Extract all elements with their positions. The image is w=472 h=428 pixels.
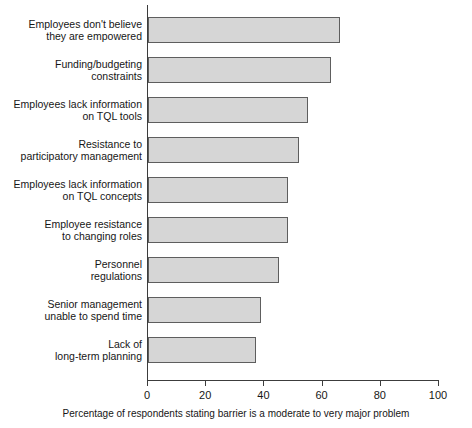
x-axis-tick	[380, 380, 381, 386]
bar-row	[148, 137, 447, 163]
bar	[148, 257, 279, 283]
bar	[148, 217, 288, 243]
category-label-line: unable to spend time	[45, 310, 142, 323]
category-label-line: Employees lack information	[14, 178, 142, 191]
bar	[148, 57, 331, 83]
category-label: Funding/budgetingconstraints	[0, 57, 142, 83]
category-label-line: Funding/budgeting	[55, 58, 142, 71]
category-label-line: Resistance to	[78, 138, 142, 151]
bar	[148, 137, 299, 163]
bars-container	[148, 17, 447, 377]
category-label-line: on TQL concepts	[63, 190, 142, 203]
category-label-line: they are empowered	[46, 30, 142, 43]
category-label-line: to changing roles	[62, 230, 142, 243]
category-label-line: participatory management	[21, 150, 142, 163]
category-label-line: Senior management	[47, 298, 142, 311]
category-label-line: Employee resistance	[45, 218, 142, 231]
category-axis-labels: Employees don't believethey are empowere…	[0, 17, 142, 377]
bar-row	[148, 257, 447, 283]
category-label: Employees lack informationon TQL tools	[0, 97, 142, 123]
x-axis-tick	[263, 380, 264, 386]
plot-area: 020406080100	[147, 5, 447, 380]
category-label-line: Personnel	[95, 258, 142, 271]
x-axis-tick-label: 60	[315, 389, 327, 401]
category-label: Senior managementunable to spend time	[0, 297, 142, 323]
x-axis-tick-label: 0	[144, 389, 150, 401]
bar-row	[148, 57, 447, 83]
category-label: Employee resistanceto changing roles	[0, 217, 142, 243]
x-axis-tick-label: 20	[199, 389, 211, 401]
x-axis-tick-label: 80	[374, 389, 386, 401]
category-label: Personnelregulations	[0, 257, 142, 283]
bar-row	[148, 177, 447, 203]
x-axis-tick	[147, 380, 148, 386]
x-axis-line	[147, 380, 438, 381]
category-label-line: regulations	[91, 270, 142, 283]
bar	[148, 297, 261, 323]
bar	[148, 337, 256, 363]
category-label: Employees don't believethey are empowere…	[0, 17, 142, 43]
bar-row	[148, 297, 447, 323]
category-label: Employees lack informationon TQL concept…	[0, 177, 142, 203]
x-axis-tick-label: 100	[429, 389, 447, 401]
bar	[148, 97, 308, 123]
bar-row	[148, 337, 447, 363]
x-axis-tick	[438, 380, 439, 386]
bar-row	[148, 17, 447, 43]
bar-row	[148, 217, 447, 243]
bar-row	[148, 97, 447, 123]
bar-chart: Employees don't believethey are empowere…	[0, 0, 472, 428]
category-label-line: on TQL tools	[82, 110, 142, 123]
category-label: Resistance toparticipatory management	[0, 137, 142, 163]
category-label: Lack oflong-term planning	[0, 337, 142, 363]
category-label-line: long-term planning	[55, 350, 142, 363]
bar	[148, 177, 288, 203]
x-axis-tick	[322, 380, 323, 386]
category-label-line: constraints	[91, 70, 142, 83]
x-axis-tick	[205, 380, 206, 386]
x-axis-tick-label: 40	[257, 389, 269, 401]
category-label-line: Lack of	[108, 338, 142, 351]
category-label-line: Employees don't believe	[29, 18, 143, 31]
bar	[148, 17, 340, 43]
category-label-line: Employees lack information	[14, 98, 142, 111]
x-axis-caption: Percentage of respondents stating barrie…	[0, 408, 472, 419]
